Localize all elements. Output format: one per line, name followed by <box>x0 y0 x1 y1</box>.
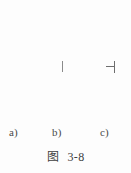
tick-mark-c-icon <box>114 61 115 73</box>
caption-prefix: 图 <box>47 150 59 164</box>
figure-caption: 图3-8 <box>0 150 131 165</box>
subfigure-label-c: c) <box>100 126 109 139</box>
caption-number: 3-8 <box>68 150 85 164</box>
tick-mark-b-icon <box>62 61 63 72</box>
figure-container: a) b) c) 图3-8 <box>0 0 131 173</box>
subfigure-label-a: a) <box>9 126 18 139</box>
vertical-line-a <box>0 0 131 110</box>
subfigure-label-b: b) <box>52 126 62 139</box>
